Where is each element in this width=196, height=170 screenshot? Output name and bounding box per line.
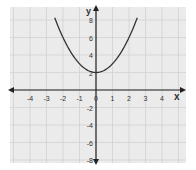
coordinate-plane: -4-3-2-101234-8-6-4-22468 x y — [0, 0, 196, 170]
x-tick-label: 3 — [144, 95, 148, 102]
x-tick-label: 1 — [111, 95, 115, 102]
y-tick-label: -8 — [87, 157, 93, 164]
y-tick-label: -6 — [87, 140, 93, 147]
y-tick-label: -4 — [87, 122, 93, 129]
plot-panel — [10, 7, 186, 163]
y-tick-label: -2 — [87, 105, 93, 112]
x-tick-label: 0 — [94, 95, 98, 102]
y-tick-label: 4 — [89, 52, 93, 59]
y-tick-label: 6 — [89, 35, 93, 42]
x-tick-label: -2 — [60, 95, 66, 102]
x-tick-label: -1 — [76, 95, 82, 102]
x-tick-label: -4 — [27, 95, 33, 102]
x-tick-label: 2 — [127, 95, 131, 102]
y-axis-label: y — [86, 6, 91, 16]
x-tick-label: -3 — [43, 95, 49, 102]
x-axis-label: x — [174, 91, 180, 102]
x-tick-label: 4 — [160, 95, 164, 102]
y-tick-label: 8 — [89, 17, 93, 24]
